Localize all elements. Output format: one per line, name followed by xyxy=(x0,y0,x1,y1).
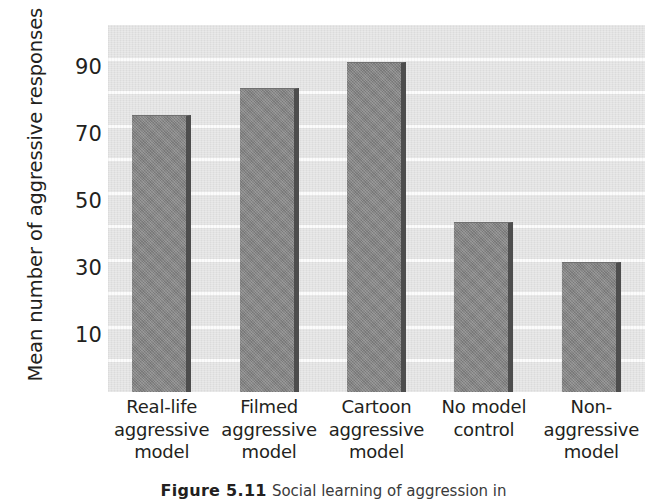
x-tick-real-life-aggressive-model: Real-life aggressive model xyxy=(106,396,218,464)
x-tick-line: Real-life xyxy=(106,396,218,419)
y-tick-50: 50 xyxy=(52,191,102,212)
figure-number: Figure 5.11 xyxy=(160,481,266,500)
x-tick-line: model xyxy=(213,441,325,464)
plot-area xyxy=(108,25,645,392)
bar-no-model-control xyxy=(454,222,513,392)
x-tick-line: aggressive xyxy=(106,419,218,442)
y-tick-90: 90 xyxy=(52,57,102,78)
gridline-100 xyxy=(108,58,645,61)
x-tick-line: model xyxy=(535,441,647,464)
x-tick-line: control xyxy=(428,419,540,442)
x-tick-line: Filmed xyxy=(213,396,325,419)
bar-real-life-aggressive-model xyxy=(132,115,191,392)
bar-cartoon-aggressive-model xyxy=(347,62,406,392)
x-tick-non-aggressive-model: Non- aggressive model xyxy=(535,396,647,464)
x-tick-line: No model xyxy=(428,396,540,419)
y-axis-tick-labels: 90 70 50 30 10 xyxy=(52,0,102,400)
x-tick-line: aggressive xyxy=(535,419,647,442)
y-tick-10: 10 xyxy=(52,325,102,346)
y-tick-70: 70 xyxy=(52,124,102,145)
x-tick-cartoon-aggressive-model: Cartoon aggressive model xyxy=(321,396,433,464)
bar-filmed-aggressive-model xyxy=(240,88,299,392)
x-tick-line: model xyxy=(106,441,218,464)
y-tick-30: 30 xyxy=(52,258,102,279)
x-tick-line: aggressive xyxy=(321,419,433,442)
x-tick-line: aggressive xyxy=(213,419,325,442)
x-tick-filmed-aggressive-model: Filmed aggressive model xyxy=(213,396,325,464)
x-tick-line: model xyxy=(321,441,433,464)
x-tick-line: Non- xyxy=(535,396,647,419)
x-tick-no-model-control: No model control xyxy=(428,396,540,441)
y-axis-label: Mean number of aggressive responses xyxy=(24,12,47,382)
x-axis-tick-labels: Real-life aggressive model Filmed aggres… xyxy=(108,396,645,468)
bar-non-aggressive-model xyxy=(562,262,621,392)
figure-caption-text: Social learning of aggression in xyxy=(272,482,507,500)
x-tick-line: Cartoon xyxy=(321,396,433,419)
figure-caption: Figure 5.11 Social learning of aggressio… xyxy=(0,481,667,500)
